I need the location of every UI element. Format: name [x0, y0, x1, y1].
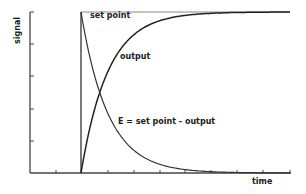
step-response-chart [0, 0, 306, 194]
series [81, 12, 290, 173]
axes [30, 12, 291, 173]
output-curve [81, 12, 290, 173]
error-label: E = set point - output [118, 117, 215, 126]
set-point-label: set point [90, 11, 130, 20]
output-label: output [120, 52, 150, 61]
axis-ticks [30, 12, 290, 173]
error-curve [81, 12, 290, 173]
y-axis-label: signal [13, 17, 22, 44]
x-axis-label: time [252, 177, 272, 186]
